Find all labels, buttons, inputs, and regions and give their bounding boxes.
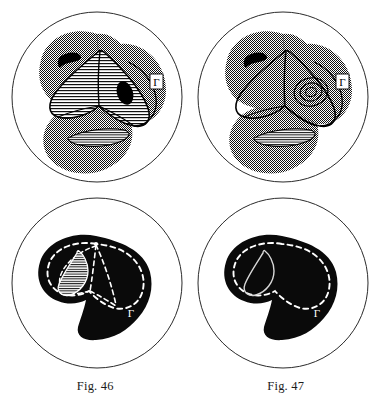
gamma-label-text: Γ	[339, 76, 345, 88]
figure-plate: Γ	[0, 0, 381, 408]
panel-bottom-right: Γ	[198, 198, 368, 368]
caption-fig-46: Fig. 46	[0, 376, 191, 398]
gamma-label-bottom-left: Γ	[128, 307, 134, 319]
gamma-label-text: Γ	[153, 76, 159, 88]
caption-row: Fig. 46 Fig. 47	[0, 376, 381, 398]
gamma-label-top-left: Γ	[150, 74, 163, 89]
figure-plate-canvas: Γ	[0, 0, 381, 408]
panel-bottom-left: Γ	[12, 198, 182, 368]
panel-top-right: Γ	[196, 10, 376, 190]
gamma-label-bottom-right: Γ	[314, 307, 320, 319]
gamma-label-top-right: Γ	[336, 74, 349, 89]
caption-fig-47: Fig. 47	[191, 376, 381, 398]
panel-top-left: Γ	[10, 10, 190, 190]
